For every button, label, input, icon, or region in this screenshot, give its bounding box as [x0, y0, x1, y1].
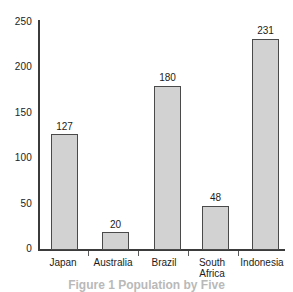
y-tick-label: 50 — [0, 199, 32, 209]
y-tick-label: 0 — [0, 244, 32, 254]
bar-value-label: 127 — [56, 121, 73, 132]
x-axis-tick — [188, 251, 189, 256]
bar-value-label: 231 — [257, 25, 274, 36]
figure-caption: Figure 1 Population by Five — [0, 279, 293, 292]
x-axis-label-australia: Australia — [86, 257, 140, 268]
bar-south-africa[interactable] — [202, 206, 229, 250]
x-axis-tick — [138, 251, 139, 256]
y-axis-tick-labels: 250 200 150 100 50 0 — [0, 0, 34, 288]
x-axis-label-south-africa: South Africa — [187, 257, 237, 279]
bar-australia[interactable] — [102, 232, 129, 250]
y-tick-label: 100 — [0, 153, 32, 163]
x-axis-label-brazil: Brazil — [139, 257, 189, 268]
bar-japan[interactable] — [51, 134, 78, 250]
y-tick-label: 150 — [0, 108, 32, 118]
x-axis-label-japan: Japan — [38, 257, 88, 268]
bar-value-label: 180 — [159, 72, 176, 83]
bar-brazil[interactable] — [154, 86, 181, 250]
x-axis-tick — [88, 251, 89, 256]
bar-value-label: 20 — [110, 219, 121, 230]
y-tick-label: 200 — [0, 62, 32, 72]
x-axis-tick — [238, 251, 239, 256]
y-tick-label: 250 — [0, 17, 32, 27]
bar-indonesia[interactable] — [252, 39, 279, 250]
bar-value-label: 48 — [210, 192, 221, 203]
plot-area: 127 20 180 48 231 — [38, 22, 285, 250]
x-axis-label-indonesia: Indonesia — [234, 257, 290, 268]
